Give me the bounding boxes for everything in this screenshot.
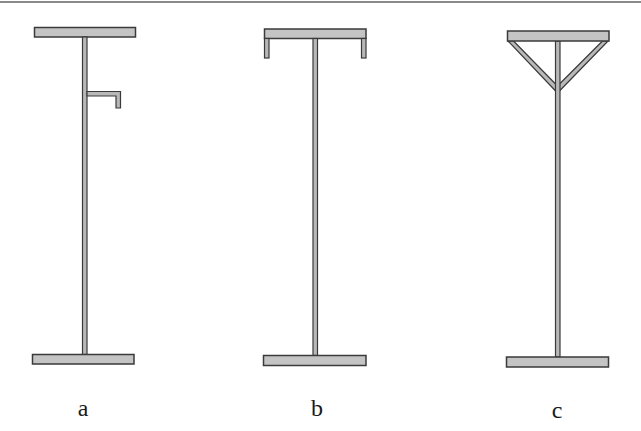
panel-c-left-brace xyxy=(508,41,558,93)
panel-a-top-flange xyxy=(35,28,136,38)
panel-c-label: c xyxy=(552,397,563,423)
panel-c: c xyxy=(507,31,610,423)
panel-b-left-lip xyxy=(265,39,270,59)
panel-b: b xyxy=(264,29,367,421)
panel-c-top-flange xyxy=(508,31,610,41)
panel-a-bracket xyxy=(87,92,121,109)
panel-c-web xyxy=(556,41,561,357)
panel-a-bottom-flange xyxy=(33,355,135,365)
panel-b-web xyxy=(313,39,318,356)
panel-a-label: a xyxy=(78,395,89,421)
top-rule xyxy=(0,1,641,3)
panel-b-top-flange xyxy=(265,29,367,39)
panel-a-web xyxy=(83,37,88,355)
panel-b-label: b xyxy=(311,395,323,421)
structural-column-diagram: a b c xyxy=(0,0,641,431)
panel-a: a xyxy=(33,28,136,422)
panel-c-right-brace xyxy=(558,41,609,93)
panel-c-bottom-flange xyxy=(507,357,609,367)
panel-b-right-lip xyxy=(362,39,367,59)
panel-b-bottom-flange xyxy=(264,356,367,366)
